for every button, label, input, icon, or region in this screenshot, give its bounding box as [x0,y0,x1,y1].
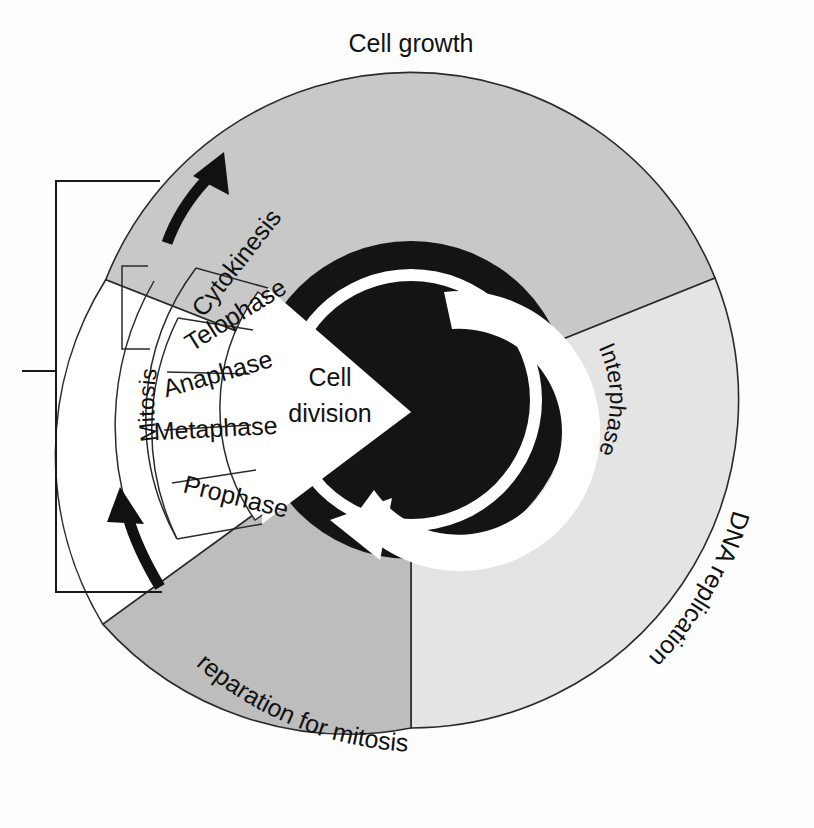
label-cell-growth: Cell growth [348,29,473,57]
cell-cycle-diagram-svg: Cell growth DNA replication Preparation … [0,0,814,828]
cell-cycle-figure: Cell growth DNA replication Preparation … [0,0,814,828]
label-cell-division-line1: Cell [308,363,351,391]
label-cell-division-line2: division [288,399,371,427]
